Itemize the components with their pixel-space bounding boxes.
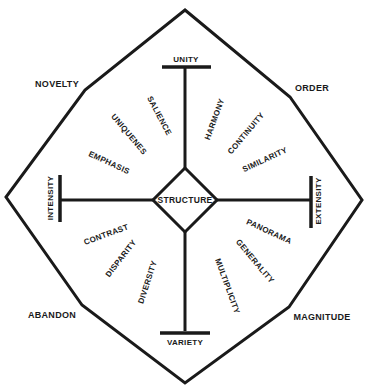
corner-label-novelty: NOVELTY [35, 79, 79, 89]
axis-label-intensity: INTENSITY [46, 175, 55, 220]
term-multiplicity: MULTIPLICITY [213, 257, 241, 315]
center-label: STRUCTURE [157, 195, 212, 205]
term-generality: GENERALITY [234, 238, 276, 286]
corner-label-order: ORDER [295, 83, 329, 93]
axis-label-extensity: EXTENSITY [314, 177, 323, 225]
axis-label-variety: VARIETY [167, 338, 204, 347]
corner-label-abandon: ABANDON [28, 310, 76, 320]
term-panorama: PANORAMA [245, 217, 293, 246]
term-similarity: SIMILARITY [241, 145, 289, 174]
term-salience: SALIENCE [145, 95, 173, 137]
corner-label-magnitude: MAGNITUDE [293, 312, 350, 322]
term-diversity: DIVERSITY [136, 259, 159, 305]
term-disparity: DISPARITY [104, 238, 139, 279]
axis-label-unity: UNITY [173, 55, 199, 64]
polarity-diagram: STRUCTURE UNITY VARIETY INTENSITY EXTENS… [0, 0, 373, 391]
term-uniquenes: UNIQUENES [109, 112, 148, 157]
term-harmony: HARMONY [203, 97, 226, 141]
term-continuity: CONTINUITY [226, 110, 266, 156]
term-contrast: CONTRAST [83, 222, 130, 246]
term-emphasis: EMPHASIS [87, 149, 131, 176]
